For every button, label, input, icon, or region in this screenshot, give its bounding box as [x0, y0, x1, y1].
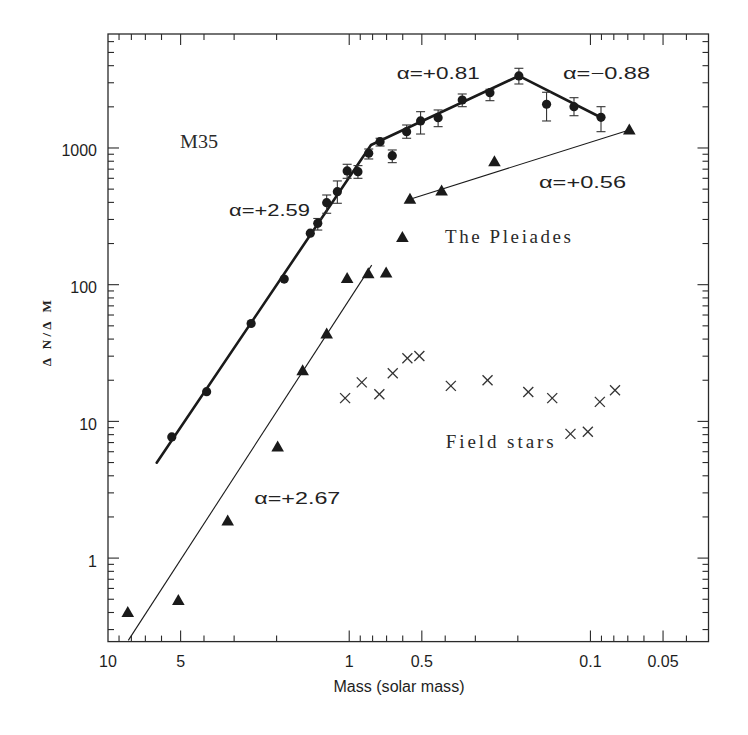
x-tick-label: 10 — [99, 653, 117, 670]
circle-marker — [542, 100, 551, 109]
circle-marker — [167, 432, 176, 441]
label-alpha-pleiades-high-mass: α=+2.67 — [254, 489, 340, 507]
y-tick-label: 1 — [88, 553, 97, 570]
circle-marker — [343, 166, 352, 175]
circle-marker — [306, 229, 315, 238]
x-tick-label: 5 — [176, 653, 185, 670]
circle-marker — [333, 187, 342, 196]
circle-marker — [202, 387, 211, 396]
circle-marker — [416, 116, 425, 125]
circle-marker — [313, 219, 322, 228]
circle-marker — [353, 167, 362, 176]
chart-background — [0, 0, 748, 735]
y-tick-label: 10 — [79, 416, 97, 433]
x-tick-label: 0.5 — [411, 653, 433, 670]
circle-marker — [280, 274, 289, 283]
circle-marker — [514, 71, 523, 80]
circle-marker — [596, 113, 605, 122]
x-tick-label: 0.1 — [579, 653, 601, 670]
circle-marker — [569, 102, 578, 111]
circle-marker — [375, 137, 384, 146]
x-tick-label: 0.05 — [647, 653, 678, 670]
circle-marker — [247, 319, 256, 328]
x-tick-label: 1 — [345, 653, 354, 670]
label-alpha-pleiades-low-mass: α=+0.56 — [539, 173, 626, 191]
circle-marker — [402, 127, 411, 136]
circle-marker — [322, 198, 331, 207]
x-axis-label: Mass (solar mass) — [334, 678, 465, 695]
circle-marker — [458, 95, 467, 104]
circle-marker — [388, 151, 397, 160]
circle-marker — [434, 113, 443, 122]
y-tick-label: 100 — [70, 279, 97, 296]
label-alpha-m35-mid-mass: α=+0.81 — [397, 64, 480, 82]
circle-marker — [485, 88, 494, 97]
label-m35: M35 — [180, 132, 218, 152]
label-the-pleiades: The Pleiades — [445, 226, 571, 247]
y-tick-label: 1000 — [61, 142, 97, 159]
label-alpha-m35-high-mass: α=+2.59 — [229, 201, 310, 219]
circle-marker — [364, 149, 373, 158]
mass-function-chart: 10510.50.10.05 1101001000 M35 α=+2.59 α=… — [0, 0, 748, 735]
label-field-stars: Field stars — [446, 431, 554, 452]
label-alpha-m35-low-mass: α=−0.88 — [563, 64, 650, 82]
y-axis-label: Δ N/Δ M — [39, 300, 54, 366]
